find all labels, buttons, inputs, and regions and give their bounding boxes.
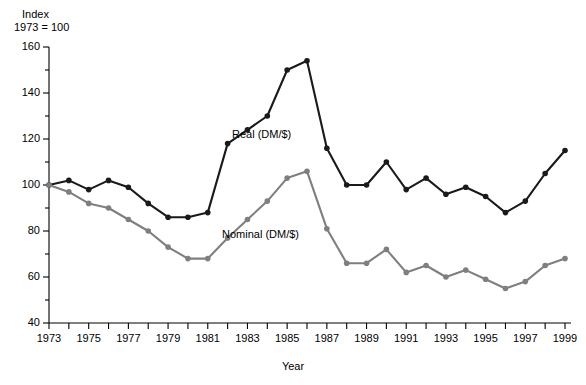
y-axis-tick-label: 60 xyxy=(10,270,40,282)
data-point-marker xyxy=(562,148,568,154)
data-point-marker xyxy=(403,270,409,276)
data-point-marker xyxy=(106,178,112,184)
x-axis-tick-label: 1989 xyxy=(347,332,387,344)
data-point-marker xyxy=(165,244,171,250)
data-point-marker xyxy=(423,175,429,181)
y-axis-tick-label: 140 xyxy=(10,86,40,98)
x-axis-tick-label: 1993 xyxy=(426,332,466,344)
x-axis-title: Year xyxy=(0,360,586,373)
data-point-marker xyxy=(165,214,171,220)
data-point-marker xyxy=(126,217,132,223)
data-point-marker xyxy=(185,214,191,220)
x-axis-tick-label: 1995 xyxy=(466,332,506,344)
data-point-marker xyxy=(463,267,469,273)
data-point-marker xyxy=(344,260,350,266)
data-point-marker xyxy=(344,182,350,188)
data-point-marker xyxy=(304,58,310,64)
y-axis-tick-label: 160 xyxy=(10,40,40,52)
y-axis-tick-label: 40 xyxy=(10,316,40,328)
y-axis-tick-label: 80 xyxy=(10,224,40,236)
data-point-marker xyxy=(225,141,231,147)
data-point-marker xyxy=(384,159,390,165)
x-axis-tick-label: 1973 xyxy=(29,332,69,344)
data-point-marker xyxy=(66,189,72,195)
data-point-marker xyxy=(503,286,509,292)
x-axis-tick-label: 1979 xyxy=(148,332,188,344)
series-line xyxy=(49,61,565,217)
x-axis-tick-label: 1977 xyxy=(108,332,148,344)
series-real xyxy=(46,58,568,220)
data-point-marker xyxy=(443,191,449,197)
data-point-marker xyxy=(126,185,132,191)
data-point-marker xyxy=(423,263,429,269)
data-point-marker xyxy=(364,182,370,188)
data-point-marker xyxy=(245,217,251,223)
data-point-marker xyxy=(205,256,211,262)
y-axis-tick-label: 100 xyxy=(10,178,40,190)
data-point-marker xyxy=(185,256,191,262)
data-point-marker xyxy=(523,279,529,285)
data-point-marker xyxy=(364,260,370,266)
x-axis-tick-label: 1987 xyxy=(307,332,347,344)
data-point-marker xyxy=(66,178,72,184)
data-point-marker xyxy=(106,205,112,211)
data-point-marker xyxy=(523,198,529,204)
data-point-marker xyxy=(145,201,151,207)
data-point-marker xyxy=(284,67,290,73)
exchange-rate-index-chart: Index 1973 = 100 16014012010080604019731… xyxy=(0,0,586,385)
data-point-marker xyxy=(463,185,469,191)
x-axis-tick-label: 1997 xyxy=(505,332,545,344)
data-point-marker xyxy=(284,175,290,181)
data-point-marker xyxy=(86,201,92,207)
data-point-marker xyxy=(46,182,52,188)
series-label-nominal: Nominal (DM/$) xyxy=(222,228,299,240)
x-axis-tick-label: 1981 xyxy=(188,332,228,344)
data-point-marker xyxy=(265,113,271,119)
data-point-marker xyxy=(542,263,548,269)
data-point-marker xyxy=(403,187,409,193)
data-point-marker xyxy=(145,228,151,234)
data-point-marker xyxy=(205,210,211,216)
data-point-marker xyxy=(542,171,548,177)
x-axis-tick-label: 1983 xyxy=(227,332,267,344)
data-point-marker xyxy=(384,247,390,253)
data-point-marker xyxy=(324,226,330,232)
plot-area xyxy=(0,0,586,385)
data-point-marker xyxy=(443,274,449,280)
x-axis-tick-label: 1975 xyxy=(69,332,109,344)
x-axis-tick-label: 1985 xyxy=(267,332,307,344)
x-axis-tick-label: 1991 xyxy=(386,332,426,344)
series-label-real: Real (DM/$) xyxy=(232,128,291,140)
data-point-marker xyxy=(265,198,271,204)
data-point-marker xyxy=(483,277,489,283)
data-point-marker xyxy=(503,210,509,216)
y-axis-tick-label: 120 xyxy=(10,132,40,144)
x-axis-tick-label: 1999 xyxy=(545,332,585,344)
data-point-marker xyxy=(483,194,489,200)
data-point-marker xyxy=(324,145,330,151)
data-point-marker xyxy=(86,187,92,193)
data-point-marker xyxy=(562,256,568,262)
data-point-marker xyxy=(304,168,310,174)
